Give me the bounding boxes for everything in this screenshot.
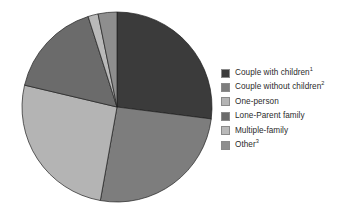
pie-slice[interactable]: Couple without children — 25.8% [100,107,211,202]
legend-item-lone-parent-family[interactable]: Lone-Parent family [221,109,359,123]
legend-item-label: Couple without children2 [235,80,324,94]
legend-swatch-icon [221,83,230,92]
pie-slice-group: Couple with children — 27%Couple without… [22,12,212,202]
legend-swatch-icon [221,97,230,106]
legend-item-couple-with-children[interactable]: Couple with children1 [221,66,359,80]
legend-item-label: Couple with children1 [235,66,313,80]
legend-item-label: One-person [235,95,279,109]
legend-item-one-person[interactable]: One-person [221,95,359,109]
legend-item-other[interactable]: Other3 [221,138,359,152]
pie-chart-figure: Couple with children — 27%Couple without… [0,0,359,213]
legend-item-couple-without-children[interactable]: Couple without children2 [221,80,359,94]
pie-plot-area: Couple with children — 27%Couple without… [0,0,228,213]
chart-legend: Couple with children1 Couple without chi… [221,66,359,152]
legend-item-label: Lone-Parent family [235,109,305,123]
legend-item-label: Multiple-family [235,124,288,138]
pie-slice[interactable]: Couple with children — 27% [117,12,212,119]
legend-item-multiple-family[interactable]: Multiple-family [221,124,359,138]
legend-swatch-icon [221,112,230,121]
legend-swatch-icon [221,69,230,78]
pie-svg: Couple with children — 27%Couple without… [0,0,228,213]
legend-swatch-icon [221,141,230,150]
legend-item-label: Other3 [235,138,259,152]
legend-swatch-icon [221,126,230,135]
